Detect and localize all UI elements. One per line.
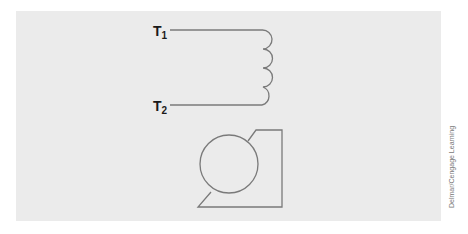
- winding-diagram: [0, 0, 468, 234]
- coil-winding: [262, 30, 273, 105]
- rotor-circle: [200, 135, 258, 193]
- terminal-t1-label: T1: [153, 24, 167, 41]
- image-credit: Delmar/Cengage Learning: [448, 126, 455, 208]
- terminal-t2-label: T2: [153, 99, 167, 116]
